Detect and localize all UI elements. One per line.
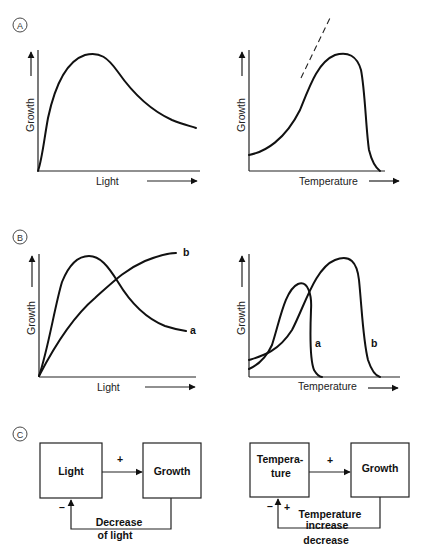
curve-b-label: b [183, 246, 189, 258]
growth-curve [38, 54, 196, 171]
curve-a-label: a [315, 337, 321, 349]
curve-a-label: a [190, 324, 196, 336]
panel-b: B Growth Light b a Growth Temperature [13, 230, 400, 393]
extrapolation-dashed-line [301, 16, 331, 78]
chart-a-temperature: Growth Temperature [235, 16, 399, 187]
curve-b [249, 258, 380, 377]
curve-b [39, 253, 176, 376]
growth-box-label: Growth [154, 465, 191, 477]
figure-canvas: A Growth Light Growth Temperature B [0, 0, 423, 550]
y-axis-label: Growth [235, 301, 247, 335]
panel-b-letter: B [17, 233, 23, 243]
growth-curve [249, 54, 380, 171]
chart-a-light: Growth Light [24, 50, 200, 187]
curve-b-label: b [371, 337, 377, 349]
feedback-sign-plus: + [284, 501, 290, 513]
feedback-label-line2: of light [98, 529, 133, 541]
feedback-label-line3: decrease [303, 534, 349, 546]
panel-c-letter: C [17, 430, 24, 440]
x-axis-label: Temperature [298, 380, 357, 392]
x-axis-label: Light [96, 175, 119, 187]
x-axis-label: Light [97, 381, 120, 393]
panel-a: A Growth Light Growth Temperature [13, 16, 399, 187]
curve-a [39, 256, 186, 376]
feedback-sign-minus: – [267, 500, 273, 512]
temperature-box-label-line2: ture [271, 467, 291, 479]
light-box-label: Light [58, 465, 84, 477]
y-axis-label: Growth [25, 301, 37, 335]
panel-a-letter: A [17, 21, 23, 31]
x-axis-label: Temperature [299, 175, 358, 187]
feedback-diagram-temperature: Tempera- ture Growth + – + Temperature i… [250, 443, 409, 546]
chart-b-temperature: Growth Temperature a b [235, 254, 400, 392]
forward-sign: + [117, 453, 123, 465]
panel-c: C Light Growth + – Decrease of light Tem… [13, 427, 409, 546]
feedback-label-line1: Decrease [96, 516, 143, 528]
curve-a [249, 283, 322, 377]
temperature-box-label-line1: Tempera- [257, 453, 304, 465]
forward-sign: + [327, 454, 333, 466]
feedback-label-line2: increase [306, 519, 349, 531]
feedback-sign: – [59, 501, 65, 513]
y-axis-label: Growth [235, 98, 247, 132]
feedback-diagram-light: Light Growth + – Decrease of light [40, 443, 201, 541]
chart-b-light: Growth Light b a [25, 246, 196, 393]
y-axis-label: Growth [24, 98, 36, 132]
growth-box-label: Growth [362, 462, 399, 474]
